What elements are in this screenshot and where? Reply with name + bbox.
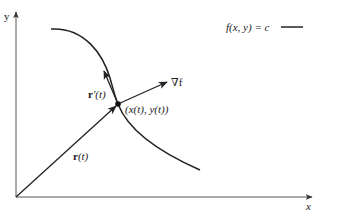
gradient-vector-arrow [118,82,167,104]
tangent-vector-arrow [104,71,118,104]
gradient-label: ∇f [171,76,183,88]
level-curve [51,29,200,170]
position-vector-label: r(t) [73,150,89,163]
position-vector-arg: (t) [78,150,89,163]
legend-label: f(x, y) = c [226,21,270,34]
curve-point [115,101,121,107]
position-vector-arrow [16,106,116,197]
legend: f(x, y) = c [226,21,303,34]
x-axis-label: x [305,200,311,212]
diagram-canvas: y x (x(t), y(t)) ∇f r′(t) r(t) f(x, y) =… [0,0,340,221]
point-label: (x(t), y(t)) [125,103,169,116]
tangent-vector-label: r′(t) [88,88,106,101]
y-axis-label: y [4,10,10,22]
tangent-vector-arg: ′(t) [93,88,106,101]
